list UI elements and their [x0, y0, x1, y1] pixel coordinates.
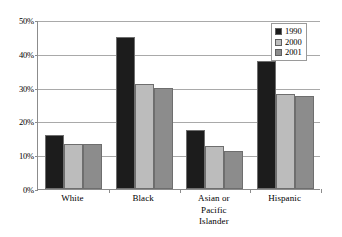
y-axis-tick-label: 10%	[1, 152, 34, 161]
legend-item: 1990	[275, 27, 302, 37]
bar-chart: 0%10%20%30%40%50% WhiteBlackAsian orPaci…	[0, 0, 342, 237]
y-axis-tick-label: 20%	[1, 118, 34, 127]
x-axis-category-label: Hispanic	[249, 193, 320, 205]
bar	[116, 37, 135, 189]
legend: 199020002001	[271, 23, 307, 61]
bar	[135, 84, 154, 189]
legend-swatch-icon	[275, 28, 282, 35]
x-axis-category-label: White	[37, 193, 108, 205]
bar-group	[45, 21, 102, 189]
y-axis: 0%10%20%30%40%50%	[0, 21, 34, 190]
x-axis-category-label-line: Black	[108, 193, 179, 205]
legend-item: 2000	[275, 37, 302, 47]
bar	[205, 146, 224, 189]
bar	[257, 61, 276, 189]
bar	[64, 144, 83, 189]
legend-item-label: 2001	[285, 48, 302, 57]
x-axis-category-label-line: Asian or	[179, 193, 250, 205]
legend-item: 2001	[275, 48, 302, 58]
x-axis-category-label-line: Islander	[179, 216, 250, 228]
x-axis-tick-mark	[321, 189, 322, 193]
y-axis-tick-label: 30%	[1, 84, 34, 93]
x-axis-category-label-line: Hispanic	[249, 193, 320, 205]
y-axis-tick-label: 50%	[1, 17, 34, 26]
bar	[186, 130, 205, 189]
legend-item-label: 2000	[285, 38, 302, 47]
legend-item-label: 1990	[285, 27, 302, 36]
legend-swatch-icon	[275, 39, 282, 46]
bar-group	[116, 21, 173, 189]
bar	[154, 88, 173, 189]
x-axis-category-label-line: Pacific	[179, 205, 250, 217]
bar	[276, 94, 295, 189]
bar	[295, 96, 314, 189]
bar	[83, 144, 102, 189]
y-axis-tick-mark	[35, 190, 38, 191]
x-axis: WhiteBlackAsian orPacificIslanderHispani…	[37, 193, 320, 237]
bar	[224, 151, 243, 189]
x-axis-category-label: Black	[108, 193, 179, 205]
legend-swatch-icon	[275, 49, 282, 56]
x-axis-category-label-line: White	[37, 193, 108, 205]
y-axis-tick-label: 40%	[1, 50, 34, 59]
y-axis-tick-label: 0%	[1, 186, 34, 195]
bar	[45, 135, 64, 189]
bar-group	[186, 21, 243, 189]
x-axis-category-label: Asian orPacificIslander	[179, 193, 250, 228]
